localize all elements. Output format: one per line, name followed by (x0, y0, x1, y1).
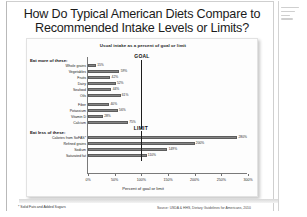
bar (88, 82, 116, 85)
group-heading-eat-less: Eat less of these: (30, 130, 65, 135)
bar-value: 44% (113, 88, 120, 91)
x-axis-tick (168, 174, 169, 176)
bar-value: 28% (104, 115, 111, 118)
x-axis-tick-label: 300% (239, 178, 257, 182)
bar-label: Fiber (30, 103, 86, 107)
x-axis-title: Percent of goal or limit (27, 186, 259, 191)
bar-label: Saturated fat (30, 154, 86, 158)
bar (88, 109, 118, 112)
bar-value: 110% (148, 154, 156, 157)
bar (88, 121, 128, 124)
bar-label: Whole grains (30, 64, 86, 68)
x-axis-tick-label: 0% (79, 178, 97, 182)
right-panel (278, 1, 307, 211)
bar-value: 40% (111, 103, 118, 106)
bar-value: 61% (122, 94, 129, 97)
page-title-line-2: Recommended Intake Levels or Limits? (21, 21, 263, 35)
x-axis-tick (221, 174, 222, 176)
bar (88, 136, 237, 139)
chart-plot-area: Eat more of these:Whole grains15%Vegetab… (87, 57, 247, 174)
bar-value: 280% (239, 136, 247, 139)
x-axis-tick-label: 50% (106, 178, 124, 182)
bar (88, 115, 103, 118)
x-axis-tick (248, 174, 249, 176)
bar-label: Fruits (30, 76, 86, 80)
bar-label: Potassium (30, 109, 86, 113)
x-axis-tick-label: 150% (159, 178, 177, 182)
right-panel-line (281, 15, 290, 16)
x-axis-tick (141, 174, 142, 176)
x-axis-tick (88, 174, 89, 176)
x-axis-tick-label: 250% (212, 178, 230, 182)
bar (88, 76, 110, 79)
bar-label: Vitamin D (30, 115, 86, 119)
bar-value: 15% (97, 64, 104, 67)
x-axis-tick (115, 174, 116, 176)
card-shadow (19, 199, 281, 203)
limit-reference-label: LIMIT (134, 125, 148, 131)
bar-label: Sodium (30, 148, 86, 152)
bar-label: Calories from SoFAS* (30, 136, 86, 140)
chart-source: Source: USDA & HHS, Dietary Guidelines f… (157, 206, 251, 210)
bar (88, 70, 119, 73)
bar (88, 103, 109, 106)
bar-value: 149% (169, 148, 177, 151)
limit-reference-line (141, 131, 142, 161)
bar-value: 52% (117, 82, 124, 85)
bar-label: Dairy (30, 82, 86, 86)
bar-label: Seafood (30, 88, 86, 92)
chart-footnote: * Solid Fats and Added Sugars (18, 205, 66, 209)
chart-card: Usual intake as a percent of goal or lim… (26, 38, 258, 197)
bar-value: 42% (112, 76, 119, 79)
bar (88, 88, 111, 91)
bar-label: Calcium (30, 121, 86, 125)
bar-value: 200% (196, 142, 204, 145)
slide-frame: How Do Typical American Diets Compare to… (6, 1, 274, 211)
chart-subtitle: Usual intake as a percent of goal or lim… (27, 43, 259, 48)
goal-reference-line (141, 60, 142, 129)
bar-label: Oils (30, 94, 86, 98)
goal-reference-label: GOAL (134, 53, 149, 59)
right-panel-line (281, 11, 295, 12)
bar (88, 94, 121, 97)
x-axis-tick-label: 200% (186, 178, 204, 182)
x-axis-tick (195, 174, 196, 176)
right-panel-line (281, 18, 293, 19)
right-panel-line (281, 7, 299, 8)
page-title-line-1: How Do Typical American Diets Compare to (21, 7, 263, 21)
bar-value: 75% (129, 121, 136, 124)
bar (88, 154, 147, 157)
x-axis-tick-label: 100% (132, 178, 150, 182)
bar-value: 56% (119, 109, 126, 112)
page-title: How Do Typical American Diets Compare to… (21, 7, 263, 36)
bar (88, 64, 96, 67)
bar-label: Vegetables (30, 70, 86, 74)
group-heading-eat-more: Eat more of these: (30, 58, 68, 63)
bar-value: 59% (121, 70, 128, 73)
bar-label: Refined grains (30, 142, 86, 146)
bar (88, 148, 167, 151)
